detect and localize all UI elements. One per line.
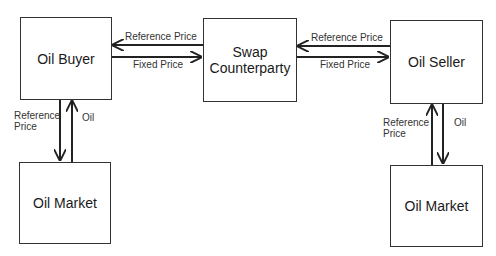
edge-label-buyer-reference-price: Reference Price — [125, 31, 197, 42]
edge-label-right-reference-line2: Price — [383, 128, 406, 139]
edge-label-left-oil: Oil — [82, 112, 94, 123]
edge-label-left-reference-line1: Reference — [14, 110, 60, 121]
node-label-line1: Swap — [232, 44, 267, 60]
edge-label-buyer-fixed-price: Fixed Price — [133, 59, 183, 70]
node-label-line2: Counterparty — [210, 60, 291, 76]
node-oil-market-right: Oil Market — [390, 165, 483, 247]
node-swap-counterparty: Swap Counterparty — [203, 18, 297, 102]
node-label: Oil Market — [405, 198, 469, 214]
node-oil-market-left: Oil Market — [19, 162, 111, 244]
edge-label-left-reference-line2: Price — [14, 121, 37, 132]
edge-label-seller-fixed-price: Fixed Price — [320, 59, 370, 70]
node-label: Oil Seller — [408, 54, 465, 70]
node-label: Oil Market — [33, 195, 97, 211]
edge-label-right-reference-line1: Reference — [383, 117, 429, 128]
node-oil-seller: Oil Seller — [390, 20, 483, 104]
node-oil-buyer: Oil Buyer — [20, 17, 112, 100]
edge-label-seller-reference-price: Reference Price — [311, 32, 383, 43]
edge-label-right-oil: Oil — [454, 117, 466, 128]
node-label: Oil Buyer — [37, 51, 95, 67]
